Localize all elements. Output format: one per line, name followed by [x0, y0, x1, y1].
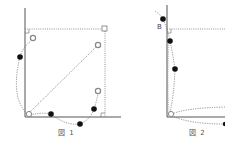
open-circle	[168, 111, 173, 116]
figure-2	[155, 5, 225, 126]
figure-1	[16, 8, 121, 127]
fig2-right-upper-curve	[172, 107, 225, 114]
filled-dot	[167, 38, 173, 44]
fig1-right-angle-bottom	[101, 113, 105, 117]
filled-dot	[160, 16, 166, 22]
filled-dot	[172, 66, 178, 72]
fig2-inner-curve	[168, 40, 169, 113]
filled-dot	[223, 122, 225, 126]
figure-1-caption: 図 1	[58, 127, 75, 137]
figure-2-caption: 図 2	[189, 127, 206, 137]
filled-dot	[48, 111, 54, 117]
open-circle	[95, 88, 100, 93]
fig1-left-arc	[16, 40, 32, 114]
fig1-right-angle-top	[25, 29, 29, 33]
filled-dot	[77, 121, 83, 127]
open-circle	[95, 42, 100, 47]
diagram-canvas	[0, 0, 225, 146]
open-circle	[26, 111, 31, 116]
fig1-lower-arc	[30, 93, 98, 124]
filled-dot	[17, 54, 23, 60]
fig1-corner-square	[102, 26, 107, 31]
fig1-diagonal	[28, 46, 97, 114]
label-b: B	[157, 23, 162, 31]
filled-dot	[91, 106, 97, 112]
open-circle	[30, 35, 35, 40]
